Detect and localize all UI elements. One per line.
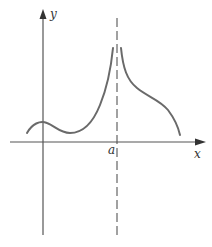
asymptote-label: a: [108, 143, 115, 157]
y-axis-arrow-icon: [40, 9, 47, 19]
graph-figure: y x a: [0, 0, 212, 247]
y-axis-label: y: [49, 7, 57, 21]
curve-right-branch: [121, 48, 180, 135]
x-axis-arrow-icon: [195, 139, 206, 146]
curve-left-branch: [27, 48, 113, 133]
x-axis-label: x: [194, 147, 201, 161]
